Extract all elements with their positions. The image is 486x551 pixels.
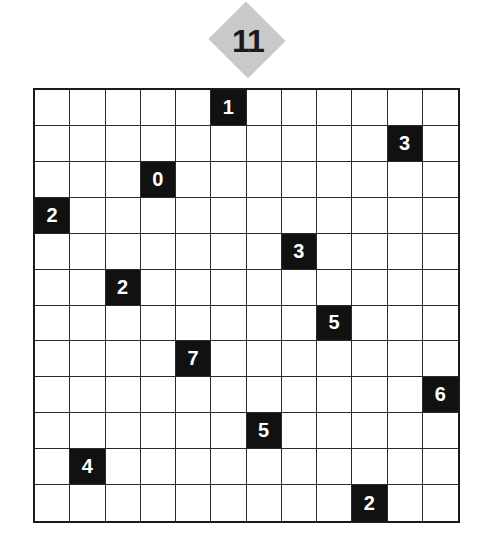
grid-cell[interactable] [70,90,105,126]
grid-cell[interactable] [352,306,387,342]
grid-cell[interactable] [211,270,246,306]
grid-cell[interactable] [388,485,423,521]
grid-cell[interactable] [211,162,246,198]
grid-cell[interactable] [211,126,246,162]
grid-cell[interactable] [388,198,423,234]
grid-cell[interactable] [70,485,105,521]
grid-cell[interactable] [423,162,458,198]
grid-cell[interactable] [211,413,246,449]
grid-cell[interactable] [282,413,317,449]
grid-cell[interactable] [141,270,176,306]
grid-cell[interactable] [35,234,70,270]
grid-cell[interactable] [352,198,387,234]
grid-cell[interactable] [176,234,211,270]
grid-cell[interactable] [282,198,317,234]
grid-cell[interactable] [176,126,211,162]
grid-cell[interactable] [423,90,458,126]
grid-cell[interactable] [70,126,105,162]
grid-cell[interactable] [70,377,105,413]
grid-cell[interactable] [388,449,423,485]
grid-cell[interactable] [35,90,70,126]
grid-cell[interactable] [211,485,246,521]
grid-cell[interactable] [388,234,423,270]
grid-cell[interactable] [176,270,211,306]
grid-cell[interactable] [35,306,70,342]
grid-cell[interactable] [247,198,282,234]
grid-cell[interactable] [352,449,387,485]
grid-cell[interactable] [247,90,282,126]
grid-cell[interactable] [176,90,211,126]
grid-cell[interactable] [106,413,141,449]
grid-cell[interactable] [141,413,176,449]
grid-cell[interactable] [247,449,282,485]
grid-cell[interactable] [35,162,70,198]
grid-cell[interactable] [282,270,317,306]
grid-cell[interactable] [423,198,458,234]
grid-cell[interactable] [317,449,352,485]
grid-cell[interactable] [352,126,387,162]
grid-cell[interactable] [423,413,458,449]
grid-cell[interactable] [282,306,317,342]
grid-cell[interactable] [282,162,317,198]
grid-cell[interactable] [141,198,176,234]
grid-cell[interactable] [247,270,282,306]
grid-cell[interactable] [141,377,176,413]
grid-cell[interactable] [211,306,246,342]
grid-cell[interactable] [176,198,211,234]
grid-cell[interactable] [35,270,70,306]
grid-cell[interactable] [317,485,352,521]
grid-cell[interactable] [423,234,458,270]
grid-cell[interactable] [247,485,282,521]
grid-cell[interactable] [70,413,105,449]
grid-cell[interactable] [141,306,176,342]
grid-cell[interactable] [282,90,317,126]
grid-cell[interactable] [247,234,282,270]
grid-cell[interactable] [388,413,423,449]
grid-cell[interactable] [35,341,70,377]
grid-cell[interactable] [388,341,423,377]
grid-cell[interactable] [211,341,246,377]
grid-cell[interactable] [247,162,282,198]
grid-cell[interactable] [106,449,141,485]
grid-cell[interactable] [317,270,352,306]
grid-cell[interactable] [317,198,352,234]
grid-cell[interactable] [352,234,387,270]
grid-cell[interactable] [70,162,105,198]
grid-cell[interactable] [388,377,423,413]
grid-cell[interactable] [106,126,141,162]
grid-cell[interactable] [70,270,105,306]
grid-cell[interactable] [388,90,423,126]
grid-cell[interactable] [352,413,387,449]
grid-cell[interactable] [352,162,387,198]
grid-cell[interactable] [247,126,282,162]
grid-cell[interactable] [141,234,176,270]
grid-cell[interactable] [211,449,246,485]
grid-cell[interactable] [141,449,176,485]
grid-cell[interactable] [388,162,423,198]
grid-cell[interactable] [317,234,352,270]
grid-cell[interactable] [317,413,352,449]
grid-cell[interactable] [106,234,141,270]
grid-cell[interactable] [423,270,458,306]
grid-cell[interactable] [247,377,282,413]
grid-cell[interactable] [176,485,211,521]
grid-cell[interactable] [35,413,70,449]
grid-cell[interactable] [70,198,105,234]
grid-cell[interactable] [352,377,387,413]
grid-cell[interactable] [70,234,105,270]
grid-cell[interactable] [176,377,211,413]
grid-cell[interactable] [35,377,70,413]
grid-cell[interactable] [317,126,352,162]
grid-cell[interactable] [352,90,387,126]
grid-cell[interactable] [317,377,352,413]
grid-cell[interactable] [106,341,141,377]
grid-cell[interactable] [317,341,352,377]
grid-cell[interactable] [211,234,246,270]
grid-cell[interactable] [176,306,211,342]
grid-cell[interactable] [247,341,282,377]
grid-cell[interactable] [211,377,246,413]
grid-cell[interactable] [317,90,352,126]
grid-cell[interactable] [106,377,141,413]
grid-cell[interactable] [35,126,70,162]
grid-cell[interactable] [106,198,141,234]
